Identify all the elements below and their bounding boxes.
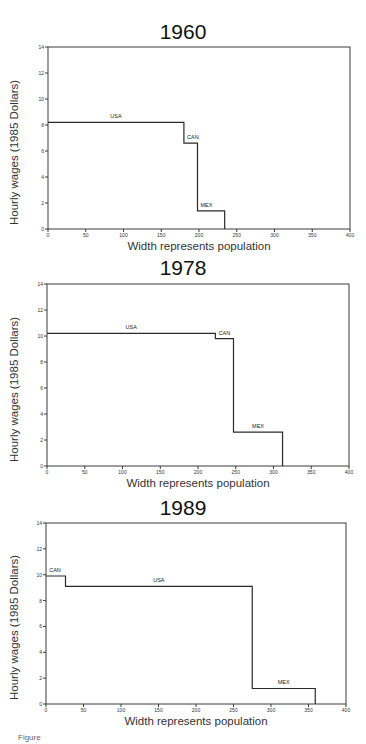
y-tick-label: 8 [39,598,42,604]
segment-label-can: CAN [49,567,61,573]
x-tick-label: 200 [192,707,201,713]
y-tick-label: 10 [36,572,42,578]
segment-label-mex: MEX [278,679,290,685]
y-tick-label: 2 [39,675,42,681]
x-tick-label: 350 [304,707,313,713]
x-tick-label: 400 [342,707,351,713]
x-tick-label: 0 [45,707,48,713]
figure-caption: Figure [18,733,41,742]
segment-label-usa: USA [153,577,165,583]
plot-frame [46,523,346,704]
y-tick-label: 12 [36,546,42,552]
y-tick-label: 0 [39,701,42,707]
y-tick-label: 6 [39,623,42,629]
x-tick-label: 50 [81,707,87,713]
x-tick-label: 150 [154,707,163,713]
x-tick-label: 250 [229,707,238,713]
plot-area: 02468101214050100150200250300350400CANUS… [0,0,366,744]
y-tick-label: 14 [36,520,42,526]
y-tick-label: 4 [39,649,42,655]
wage-step-line [46,576,315,704]
x-tick-label: 300 [267,707,276,713]
x-tick-label: 100 [117,707,126,713]
